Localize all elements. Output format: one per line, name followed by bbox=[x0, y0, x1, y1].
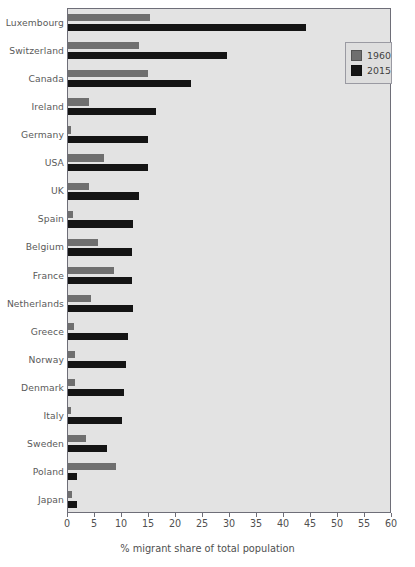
x-tick bbox=[202, 513, 203, 517]
bar-1960 bbox=[68, 126, 71, 133]
bar-1960 bbox=[68, 211, 73, 218]
category-label: Canada bbox=[28, 73, 64, 84]
bar-1960 bbox=[68, 70, 148, 77]
legend-item-1960: 1960 bbox=[351, 48, 387, 63]
category-label: Spain bbox=[38, 213, 64, 224]
x-tick bbox=[256, 513, 257, 517]
bar-2015 bbox=[68, 164, 148, 171]
bar-1960 bbox=[68, 435, 86, 442]
category-label: Germany bbox=[21, 129, 64, 140]
category-label: France bbox=[33, 269, 64, 280]
x-tick bbox=[121, 513, 122, 517]
x-tick-label: 20 bbox=[169, 518, 181, 529]
x-axis-title: % migrant share of total population bbox=[0, 543, 415, 554]
chart-row: Norway bbox=[0, 345, 415, 373]
chart-row: Belgium bbox=[0, 232, 415, 260]
category-label: Sweden bbox=[27, 437, 64, 448]
x-tick-label: 0 bbox=[64, 518, 70, 529]
bar-1960 bbox=[68, 14, 150, 21]
bar-1960 bbox=[68, 323, 74, 330]
x-tick-label: 45 bbox=[304, 518, 316, 529]
bar-2015 bbox=[68, 52, 227, 59]
category-label: Switzerland bbox=[9, 45, 64, 56]
bar-1960 bbox=[68, 98, 89, 105]
bar-2015 bbox=[68, 333, 128, 340]
category-label: Greece bbox=[31, 325, 64, 336]
x-tick bbox=[175, 513, 176, 517]
chart-row: Greece bbox=[0, 317, 415, 345]
x-tick bbox=[148, 513, 149, 517]
x-tick-label: 55 bbox=[358, 518, 370, 529]
chart-row: Netherlands bbox=[0, 289, 415, 317]
bar-2015 bbox=[68, 417, 122, 424]
category-label: Netherlands bbox=[7, 297, 64, 308]
bar-1960 bbox=[68, 463, 116, 470]
chart-row: Germany bbox=[0, 120, 415, 148]
chart-row: USA bbox=[0, 148, 415, 176]
bar-2015 bbox=[68, 277, 132, 284]
bar-2015 bbox=[68, 305, 133, 312]
x-tick-label: 10 bbox=[115, 518, 127, 529]
x-tick bbox=[67, 513, 68, 517]
legend-item-2015: 2015 bbox=[351, 63, 387, 78]
x-tick-label: 60 bbox=[385, 518, 397, 529]
bar-1960 bbox=[68, 351, 75, 358]
category-label: Norway bbox=[29, 353, 64, 364]
chart-row: Sweden bbox=[0, 429, 415, 457]
chart-legend: 1960 2015 bbox=[345, 42, 392, 84]
category-label: Denmark bbox=[21, 381, 64, 392]
chart-row: Luxembourg bbox=[0, 8, 415, 36]
bar-2015 bbox=[68, 108, 156, 115]
x-tick bbox=[391, 513, 392, 517]
chart-row: Japan bbox=[0, 485, 415, 513]
bar-2015 bbox=[68, 220, 133, 227]
bar-1960 bbox=[68, 379, 75, 386]
chart-row: Italy bbox=[0, 401, 415, 429]
category-label: Ireland bbox=[32, 101, 64, 112]
bar-1960 bbox=[68, 154, 104, 161]
category-label: Poland bbox=[33, 465, 64, 476]
x-tick-label: 15 bbox=[142, 518, 154, 529]
bar-2015 bbox=[68, 136, 148, 143]
chart-row: Denmark bbox=[0, 373, 415, 401]
x-tick bbox=[229, 513, 230, 517]
bar-2015 bbox=[68, 248, 132, 255]
category-label: Japan bbox=[38, 493, 64, 504]
bar-1960 bbox=[68, 183, 89, 190]
bar-2015 bbox=[68, 80, 191, 87]
bar-2015 bbox=[68, 473, 77, 480]
bar-2015 bbox=[68, 389, 124, 396]
x-tick-label: 30 bbox=[223, 518, 235, 529]
bar-2015 bbox=[68, 361, 126, 368]
bar-1960 bbox=[68, 239, 98, 246]
x-tick bbox=[283, 513, 284, 517]
bar-1960 bbox=[68, 267, 114, 274]
category-label: Italy bbox=[44, 409, 64, 420]
chart-row: Ireland bbox=[0, 92, 415, 120]
bar-2015 bbox=[68, 192, 139, 199]
legend-swatch-2015 bbox=[351, 65, 362, 76]
bar-1960 bbox=[68, 491, 72, 498]
chart-row: UK bbox=[0, 176, 415, 204]
legend-label-1960: 1960 bbox=[367, 50, 391, 61]
category-label: Belgium bbox=[26, 241, 64, 252]
x-tick-label: 5 bbox=[91, 518, 97, 529]
bar-2015 bbox=[68, 445, 107, 452]
chart-row: Spain bbox=[0, 204, 415, 232]
chart-row: Poland bbox=[0, 457, 415, 485]
bar-2015 bbox=[68, 24, 306, 31]
chart-row: France bbox=[0, 261, 415, 289]
bar-1960 bbox=[68, 407, 71, 414]
x-tick bbox=[337, 513, 338, 517]
x-tick bbox=[364, 513, 365, 517]
bar-1960 bbox=[68, 295, 91, 302]
legend-label-2015: 2015 bbox=[367, 65, 391, 76]
category-label: UK bbox=[51, 185, 64, 196]
x-tick bbox=[310, 513, 311, 517]
x-tick bbox=[94, 513, 95, 517]
migrant-share-bar-chart: LuxembourgSwitzerlandCanadaIrelandGerman… bbox=[0, 0, 415, 567]
x-tick-label: 50 bbox=[331, 518, 343, 529]
bar-1960 bbox=[68, 42, 139, 49]
x-tick-label: 25 bbox=[196, 518, 208, 529]
category-label: USA bbox=[45, 157, 64, 168]
